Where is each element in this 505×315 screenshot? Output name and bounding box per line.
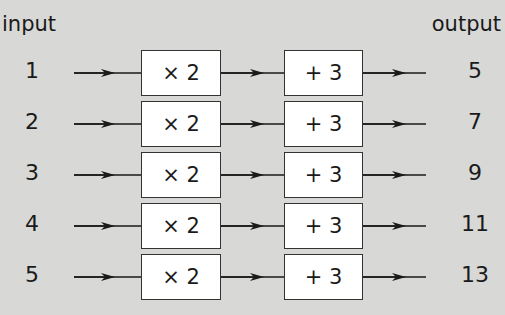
- input-value: 2: [12, 109, 52, 134]
- add-box: + 3: [284, 50, 363, 96]
- multiply-box: × 2: [141, 203, 221, 249]
- input-value: 3: [12, 160, 52, 185]
- output-value: 9: [455, 160, 495, 185]
- multiply-box: × 2: [141, 50, 221, 96]
- multiply-box: × 2: [141, 152, 221, 198]
- input-value: 1: [12, 58, 52, 83]
- function-machine-row-3: 3 × 2 + 3 9: [0, 152, 505, 198]
- add-box: + 3: [284, 152, 363, 198]
- add-box: + 3: [284, 254, 363, 300]
- function-machine-row-5: 5 × 2 + 3 13: [0, 254, 505, 300]
- add-box: + 3: [284, 101, 363, 147]
- input-value: 4: [12, 211, 52, 236]
- function-machine-row-1: 1 × 2 + 3 5: [0, 50, 505, 96]
- function-machine-row-2: 2 × 2 + 3 7: [0, 101, 505, 147]
- multiply-box: × 2: [141, 101, 221, 147]
- add-box: + 3: [284, 203, 363, 249]
- output-value: 7: [455, 109, 495, 134]
- function-machine-row-4: 4 × 2 + 3 11: [0, 203, 505, 249]
- output-value: 5: [455, 58, 495, 83]
- output-value: 11: [455, 211, 495, 236]
- multiply-box: × 2: [141, 254, 221, 300]
- input-value: 5: [12, 262, 52, 287]
- output-value: 13: [455, 262, 495, 287]
